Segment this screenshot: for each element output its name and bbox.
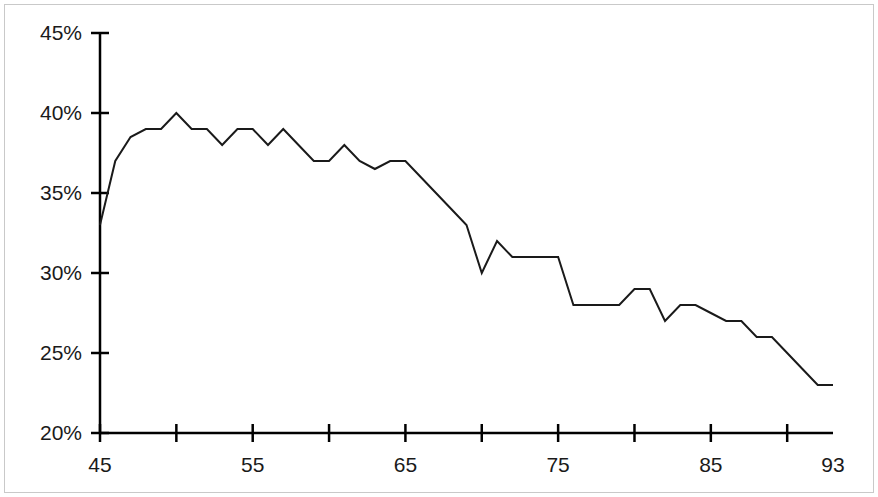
y-axis-group [91, 33, 109, 433]
x-axis-tick-label: 85 [699, 453, 722, 477]
y-axis-tick-label: 25% [20, 341, 82, 365]
x-axis-tick-label: 65 [394, 453, 417, 477]
chart-page: 45%40%35%30%25%20% 455565758593 [0, 0, 878, 497]
y-axis-tick-label: 45% [20, 21, 82, 45]
y-axis-tick-label: 20% [20, 421, 82, 445]
x-axis-tick-label: 55 [241, 453, 264, 477]
x-axis-tick-label: 45 [88, 453, 111, 477]
x-axis-group [100, 424, 833, 442]
plot-area: 45%40%35%30%25%20% 455565758593 [0, 0, 878, 497]
x-axis-tick-label: 93 [821, 453, 844, 477]
y-axis-tick-label: 35% [20, 181, 82, 205]
x-axis-tick-label: 75 [546, 453, 569, 477]
y-axis-tick-label: 40% [20, 101, 82, 125]
y-axis-tick-label: 30% [20, 261, 82, 285]
line-chart-svg [0, 0, 878, 497]
data-series-group [100, 113, 833, 385]
data-line [100, 113, 833, 385]
